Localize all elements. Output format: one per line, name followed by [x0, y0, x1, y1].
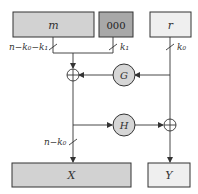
h-label: H	[119, 120, 129, 131]
m-box: m	[13, 12, 94, 37]
zeros-width-label: k₁	[120, 42, 129, 52]
xor-right	[164, 119, 176, 131]
xor-left	[67, 69, 79, 81]
oaep-diagram: m 000 r n−k₀−k₁ k₁ k₀ n−k₀ G	[0, 0, 198, 194]
bit-width-slashes	[49, 44, 174, 145]
zeros-box: 000	[99, 12, 133, 37]
y-box: Y	[148, 163, 190, 187]
x-width-label: n−k₀	[44, 137, 67, 147]
r-label: r	[168, 19, 174, 32]
h-function: H	[113, 114, 135, 136]
m-width-label: n−k₀−k₁	[9, 42, 48, 52]
left-line	[73, 81, 112, 162]
r-line	[135, 37, 170, 120]
m-label: m	[48, 19, 58, 32]
r-box: r	[150, 12, 191, 37]
g-label: G	[120, 70, 128, 81]
x-box: X	[12, 163, 131, 187]
zeros-label: 000	[106, 20, 125, 31]
x-label: X	[67, 169, 77, 182]
r-width-label: k₀	[177, 42, 186, 52]
m-zeros-merge-lines	[53, 37, 113, 68]
g-function: G	[113, 64, 135, 86]
